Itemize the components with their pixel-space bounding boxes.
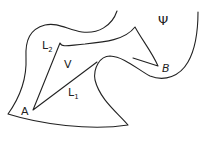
label-l1-sub: 1 [74,93,78,101]
label-psi: Ψ [158,14,168,27]
label-b: B [162,63,170,74]
diagram-canvas [0,0,207,148]
label-l2: L2 [42,40,53,54]
label-l2-sub: 2 [48,46,52,54]
label-v: V [64,59,72,70]
label-a: A [21,106,29,117]
label-l1: L1 [68,87,79,101]
